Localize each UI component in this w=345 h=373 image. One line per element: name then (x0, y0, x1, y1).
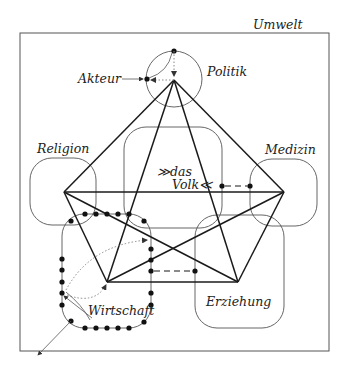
erziehung-label: Erziehung (205, 294, 271, 309)
structural-couplings (148, 183, 252, 273)
religion-label: Religion (36, 141, 89, 156)
system-diagram: Umwelt Akteur (0, 0, 345, 373)
medizin-label: Medizin (264, 142, 316, 157)
volk-label-line2: Volk≪ (172, 177, 214, 192)
actor-label: Akteur (77, 71, 122, 86)
wirtschaft-flows (38, 240, 147, 355)
politik-label: Politik (206, 64, 247, 79)
erziehung-box (195, 215, 284, 328)
environment-label: Umwelt (253, 17, 303, 32)
wirtschaft-label: Wirtschaft (88, 303, 155, 318)
